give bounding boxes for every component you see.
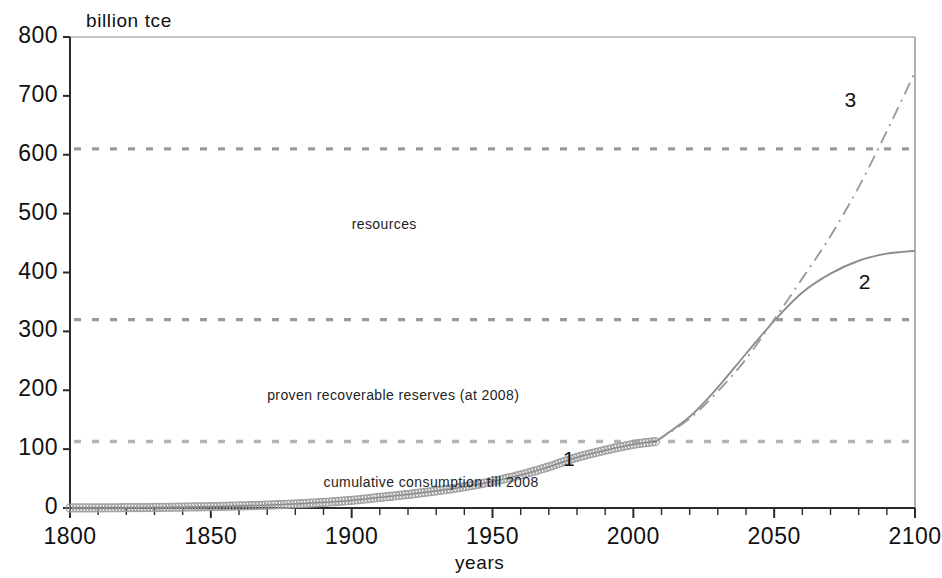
curve-label-2: 2: [859, 270, 871, 294]
band-label-resources-line: resources: [352, 216, 417, 232]
chart-plot-svg: [0, 0, 942, 578]
series-2-line: [656, 251, 915, 442]
y-axis-tick-label: 300: [0, 316, 58, 343]
y-axis-tick-label: 0: [0, 493, 58, 520]
curve-label-3: 3: [845, 88, 857, 112]
band-label-proven-reserves-line: proven recoverable reserves (at 2008): [267, 387, 519, 403]
x-axis-tick-label: 1900: [302, 523, 402, 550]
series-3-line: [656, 72, 915, 441]
x-axis-tick-label: 1850: [161, 523, 261, 550]
y-axis-tick-label: 800: [0, 22, 58, 49]
curve-label-1: 1: [563, 447, 575, 471]
chart-figure: billion tce years 0100200300400500600700…: [0, 0, 942, 578]
x-axis-tick-label: 2100: [865, 523, 942, 550]
x-axis-tick-label: 1950: [443, 523, 543, 550]
y-axis-tick-label: 600: [0, 140, 58, 167]
band-label-cumulative-consumption-line: cumulative consumption till 2008: [324, 474, 539, 490]
y-axis-tick-label: 400: [0, 258, 58, 285]
x-axis-tick-label: 2000: [583, 523, 683, 550]
y-axis-tick-label: 700: [0, 81, 58, 108]
x-axis-tick-label: 1800: [20, 523, 120, 550]
y-axis-tick-label: 100: [0, 434, 58, 461]
y-axis-tick-label: 500: [0, 199, 58, 226]
x-axis-tick-label: 2050: [724, 523, 824, 550]
y-axis-unit-label: billion tce: [86, 10, 172, 32]
y-axis-tick-label: 200: [0, 375, 58, 402]
x-axis-title: years: [455, 552, 504, 574]
